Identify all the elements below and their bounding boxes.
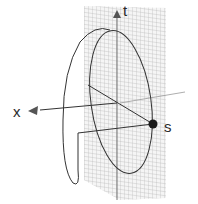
diagram-figure — [0, 0, 198, 204]
x-axis-arrow-icon — [28, 106, 38, 115]
t-axis-label: t — [123, 3, 127, 18]
point-s-label: s — [164, 119, 172, 134]
x-axis-label: x — [13, 104, 21, 119]
point-s — [149, 120, 158, 129]
grid-plane — [84, 6, 166, 200]
